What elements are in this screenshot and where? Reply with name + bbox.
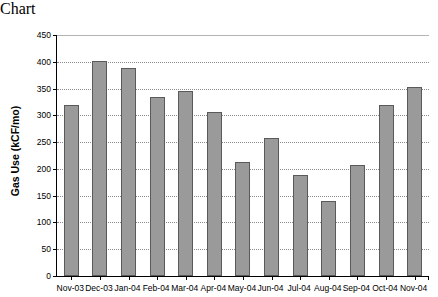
- y-axis-tick-label: 150: [5, 192, 51, 200]
- bar: [121, 68, 136, 276]
- x-axis-tick-mark: [71, 276, 72, 280]
- x-axis-labels: Nov-03Dec-03Jan-04Feb-04Mar-04Apr-04May-…: [56, 282, 428, 296]
- x-axis-tick-mark: [243, 276, 244, 280]
- x-axis-tick-label: Jul-04: [285, 282, 314, 296]
- y-axis-tick-label: 0: [5, 272, 51, 280]
- gas-use-bar-chart: Gas Use (kCF/mo) 05010015020025030035040…: [0, 18, 438, 297]
- bar-slot: [171, 35, 200, 276]
- bar-slot: [372, 35, 401, 276]
- y-axis-tick-label: 100: [5, 218, 51, 226]
- plot-area: 050100150200250300350400450: [56, 35, 429, 277]
- x-axis-tick-label: Sep-04: [342, 282, 371, 296]
- x-axis-tick-label: Feb-04: [142, 282, 171, 296]
- bar: [321, 201, 336, 277]
- x-axis-tick-end: [428, 276, 429, 280]
- bar: [178, 91, 193, 276]
- bar: [379, 105, 394, 276]
- x-axis-tick-mark: [272, 276, 273, 280]
- x-axis-tick-mark: [386, 276, 387, 280]
- bar-slot: [200, 35, 229, 276]
- bar: [207, 112, 222, 276]
- bar: [92, 61, 107, 276]
- bar: [293, 175, 308, 276]
- bar-slot: [57, 35, 86, 276]
- x-axis-tick-label: Jan-04: [113, 282, 142, 296]
- x-axis-tick-label: Mar-04: [170, 282, 199, 296]
- x-axis-tick-label: Jun-04: [256, 282, 285, 296]
- x-axis-tick-mark: [214, 276, 215, 280]
- bar-slot: [314, 35, 343, 276]
- bar: [235, 162, 250, 276]
- bar-slot: [143, 35, 172, 276]
- x-axis-tick-label: Dec-03: [85, 282, 114, 296]
- bar-slot: [286, 35, 315, 276]
- bar-slot: [86, 35, 115, 276]
- x-axis-tick-mark: [415, 276, 416, 280]
- bar: [407, 87, 422, 276]
- x-axis-tick-mark: [329, 276, 330, 280]
- y-axis-tick-label: 300: [5, 111, 51, 119]
- x-axis-tick-mark: [157, 276, 158, 280]
- x-axis-tick-mark: [357, 276, 358, 280]
- bar-slot: [343, 35, 372, 276]
- bar: [350, 165, 365, 276]
- x-axis-tick-mark: [100, 276, 101, 280]
- bar: [64, 105, 79, 276]
- bar-slot: [257, 35, 286, 276]
- y-axis-tick-label: 200: [5, 165, 51, 173]
- x-axis-tick-label: Apr-04: [199, 282, 228, 296]
- y-axis-tick-mark: [53, 276, 57, 277]
- y-axis-tick-label: 450: [5, 31, 51, 39]
- bar: [150, 97, 165, 276]
- x-axis-tick-label: Aug-04: [313, 282, 342, 296]
- bar-slot: [114, 35, 143, 276]
- bar-slot: [229, 35, 258, 276]
- x-axis-tick-label: Oct-04: [371, 282, 400, 296]
- bar-slot: [400, 35, 429, 276]
- x-axis-tick-mark: [129, 276, 130, 280]
- y-axis-tick-label: 250: [5, 138, 51, 146]
- y-axis-tick-label: 400: [5, 58, 51, 66]
- x-axis-tick-label: Nov-04: [399, 282, 428, 296]
- x-axis-tick-label: Nov-03: [56, 282, 85, 296]
- y-axis-tick-label: 50: [5, 245, 51, 253]
- x-axis-tick-mark: [300, 276, 301, 280]
- y-axis-tick-label: 350: [5, 85, 51, 93]
- bar-series: [57, 35, 429, 276]
- x-axis-tick-mark: [186, 276, 187, 280]
- bar: [264, 138, 279, 276]
- x-axis-tick-label: May-04: [228, 282, 257, 296]
